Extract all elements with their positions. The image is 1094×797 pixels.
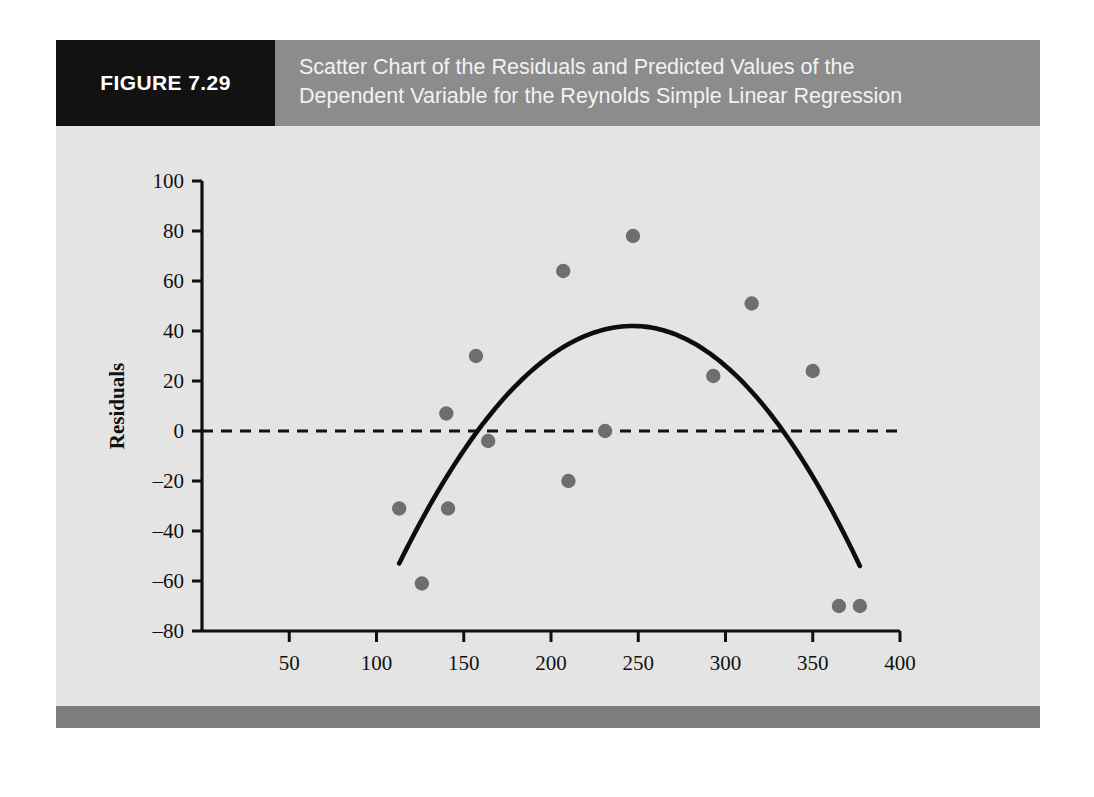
y-tick-label: 100 — [153, 169, 185, 193]
x-tick-label: 100 — [361, 651, 393, 675]
y-axis-title: Residuals — [105, 363, 129, 449]
figure-number-badge: FIGURE 7.29 — [56, 40, 275, 126]
figure-header: FIGURE 7.29 Scatter Chart of the Residua… — [56, 40, 1040, 126]
y-tick-label: –20 — [152, 469, 185, 493]
y-tick-label: 60 — [163, 269, 184, 293]
y-tick-label: 20 — [163, 369, 184, 393]
y-tick-label: –80 — [152, 619, 185, 643]
fitted-curve — [399, 326, 860, 566]
figure-number-label: FIGURE 7.29 — [100, 71, 230, 95]
y-tick-label: 0 — [174, 419, 185, 443]
x-tick-label: 300 — [710, 651, 742, 675]
scatter-point[interactable] — [556, 264, 570, 278]
y-tick-label: 80 — [163, 219, 184, 243]
figure-page: FIGURE 7.29 Scatter Chart of the Residua… — [0, 0, 1094, 797]
scatter-point[interactable] — [481, 434, 495, 448]
scatter-point[interactable] — [626, 229, 640, 243]
scatter-point[interactable] — [415, 576, 429, 590]
figure-bottom-padding — [56, 686, 1040, 706]
x-tick-label: 400 — [884, 651, 916, 675]
x-tick-label: 200 — [535, 651, 567, 675]
scatter-point[interactable] — [832, 599, 846, 613]
scatter-point[interactable] — [392, 501, 406, 515]
y-tick-label: –40 — [152, 519, 185, 543]
scatter-point[interactable] — [853, 599, 867, 613]
x-tick-label: 250 — [623, 651, 655, 675]
y-tick-label: –60 — [152, 569, 185, 593]
scatter-point[interactable] — [706, 369, 720, 383]
scatter-point[interactable] — [439, 406, 453, 420]
figure-title-line-2: Dependent Variable for the Reynolds Simp… — [299, 82, 1019, 111]
figure-bottom-bar — [56, 706, 1040, 728]
x-tick-label: 50 — [279, 651, 300, 675]
scatter-point[interactable] — [561, 474, 575, 488]
figure-title: Scatter Chart of the Residuals and Predi… — [299, 53, 1019, 111]
x-tick-label: 350 — [797, 651, 829, 675]
scatter-point[interactable] — [598, 424, 612, 438]
figure-panel: FIGURE 7.29 Scatter Chart of the Residua… — [56, 40, 1040, 728]
figure-title-line-1: Scatter Chart of the Residuals and Predi… — [299, 55, 854, 79]
scatter-point[interactable] — [469, 349, 483, 363]
chart-area: 100806040200–20–40–60–805010015020025030… — [56, 126, 1040, 686]
scatter-point[interactable] — [806, 364, 820, 378]
scatter-point[interactable] — [441, 501, 455, 515]
scatter-point[interactable] — [744, 296, 758, 310]
y-tick-label: 40 — [163, 319, 184, 343]
scatter-chart: 100806040200–20–40–60–805010015020025030… — [56, 126, 1040, 686]
x-tick-label: 150 — [448, 651, 480, 675]
